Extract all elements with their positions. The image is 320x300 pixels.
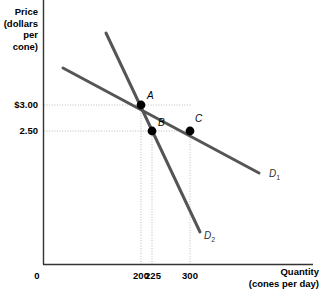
point-label-c: C bbox=[195, 113, 202, 124]
chart-canvas bbox=[0, 0, 320, 300]
x-axis-title: Quantity(cones per day) bbox=[233, 266, 319, 289]
x-axis-title-sub: (cones per day) bbox=[249, 278, 319, 289]
point-label-a: A bbox=[147, 90, 154, 101]
demand-curve-chart: Price (dollars per cone) Quantity(cones … bbox=[0, 0, 320, 300]
data-point-a bbox=[137, 101, 146, 110]
y-tick-label-2-50: 2.50 bbox=[0, 125, 38, 136]
data-point-b bbox=[148, 127, 157, 136]
x-tick-label-300: 300 bbox=[176, 270, 204, 281]
y-axis-title: Price (dollars per cone) bbox=[0, 6, 38, 52]
y-tick-label-3-00: $3.00 bbox=[0, 99, 38, 110]
x-tick-label-225: 225 bbox=[139, 270, 167, 281]
x-tick-label-origin: 0 bbox=[30, 270, 44, 281]
x-axis-title-main: Quantity bbox=[280, 266, 319, 277]
data-point-c bbox=[186, 127, 195, 136]
point-label-b: B bbox=[158, 117, 165, 128]
curve-label-d2: D2 bbox=[204, 230, 215, 243]
curve-label-d1-sub: 1 bbox=[276, 174, 280, 181]
curve-label-d1: D1 bbox=[269, 168, 280, 181]
curve-label-d2-sub: 2 bbox=[211, 236, 215, 243]
